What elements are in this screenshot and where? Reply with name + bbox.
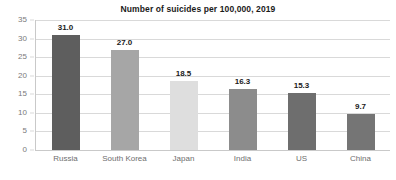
y-tick-mark [30,94,34,95]
y-tick-label: 15 [18,90,27,98]
y-tick-label: 0 [23,146,27,154]
x-tick-label: South Korea [102,155,146,163]
y-axis: 05101520253035 [0,20,34,150]
x-tick-label: India [234,155,251,163]
bar-value-label: 27.0 [117,39,133,47]
y-tick-mark [30,20,34,21]
y-tick-mark [30,75,34,76]
y-tick-mark [30,150,34,151]
bar-slot: 16.3 [213,20,272,150]
bar-value-label: 15.3 [294,82,310,90]
chart-title: Number of suicides per 100,000, 2019 [0,4,396,14]
y-tick-label: 25 [18,53,27,61]
plot-area: 31.027.018.516.315.39.7 [36,20,390,150]
bar-china[interactable] [347,114,375,150]
x-tick-label: China [350,155,371,163]
bar-japan[interactable] [170,81,198,150]
y-tick-mark [30,57,34,58]
y-tick-mark [30,38,34,39]
y-tick-label: 5 [23,127,27,135]
y-tick-label: 10 [18,109,27,117]
bar-south-korea[interactable] [111,50,139,150]
bar-slot: 31.0 [36,20,95,150]
bar-value-label: 18.5 [176,70,192,78]
bar-slot: 9.7 [331,20,390,150]
x-tick-label: Russia [53,155,77,163]
bar-slot: 27.0 [95,20,154,150]
y-tick-mark [30,112,34,113]
bar-value-label: 31.0 [58,24,74,32]
bar-us[interactable] [288,93,316,150]
bar-chart: Number of suicides per 100,000, 2019 051… [0,0,396,180]
y-tick-label: 30 [18,35,27,43]
y-tick-mark [30,131,34,132]
bar-slot: 15.3 [272,20,331,150]
y-tick-label: 20 [18,72,27,80]
bar-russia[interactable] [52,35,80,150]
x-axis: RussiaSouth KoreaJapanIndiaUSChina [36,152,390,174]
y-tick-label: 35 [18,16,27,24]
bar-value-label: 9.7 [355,103,366,111]
bar-value-label: 16.3 [235,78,251,86]
x-tick-label: Japan [173,155,195,163]
bar-india[interactable] [229,89,257,150]
bar-slot: 18.5 [154,20,213,150]
gridline [36,150,390,151]
x-tick-label: US [296,155,307,163]
